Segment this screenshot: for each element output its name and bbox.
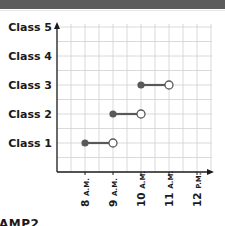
open-endpoint-icon [137,110,145,118]
x-axis-arrow-icon [207,169,214,175]
open-endpoint-icon [165,81,173,89]
y-axis-label: Class 2 [8,108,52,121]
x-axis-tick-label: 11 A.M. [163,171,175,207]
y-axis-label: Class 5 [8,21,52,34]
y-axis-labels: Class 1Class 2Class 3Class 4Class 5 [8,21,52,150]
closed-endpoint-icon [109,110,116,117]
y-axis-label: Class 4 [8,50,52,63]
x-axis-tick-label: 8 A.M. [79,178,91,207]
y-axis-label: Class 3 [8,79,52,92]
axes [54,22,214,175]
y-axis-arrow-icon [54,22,60,29]
class-schedule-chart: Class 1Class 2Class 3Class 4Class 5 8 A.… [0,0,225,226]
x-axis-labels: 8 A.M.9 A.M.10 A.M.11 A.M.12 P.M. [79,171,203,207]
grid-lines [57,24,212,172]
open-endpoint-icon [109,139,117,147]
y-axis-label: Class 1 [8,137,52,150]
closed-endpoint-icon [81,139,88,146]
x-axis-tick-label: 9 A.M. [107,178,119,207]
closed-endpoint-icon [137,81,144,88]
x-axis-tick-label: 10 A.M. [135,171,147,207]
x-axis-tick-label: 12 P.M. [191,173,203,207]
footer-partial-text: AMP2 [0,218,39,226]
